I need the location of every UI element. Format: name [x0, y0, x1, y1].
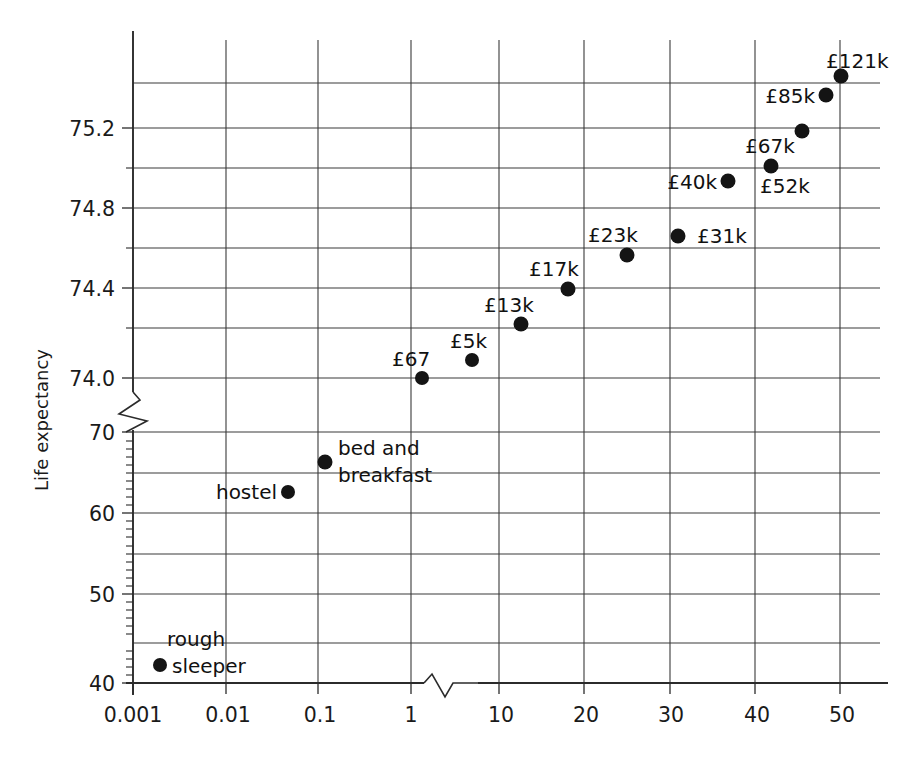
- scatter-chart: 75.2 74.8 74.4 74.0 70 60 50 40 0.001 0.…: [0, 0, 912, 762]
- point-label-13k: £13k: [484, 293, 534, 317]
- y-tick-label-74-0: 74.0: [69, 367, 115, 391]
- chart-canvas: 75.2 74.8 74.4 74.0 70 60 50 40 0.001 0.…: [0, 0, 912, 762]
- grid-horizontal-upper: [133, 83, 880, 378]
- data-point-85k[interactable]: [819, 88, 834, 103]
- data-point-52k[interactable]: [764, 159, 779, 174]
- y-tick-label-40: 40: [89, 672, 115, 696]
- point-label-85k: £85k: [765, 84, 815, 108]
- x-tick-label-50: 50: [829, 703, 855, 727]
- axis-spines: [119, 31, 888, 697]
- data-point-67[interactable]: [415, 371, 429, 385]
- point-label-bb-line1: bed and: [338, 436, 420, 460]
- x-tick-label-0-01: 0.01: [205, 703, 251, 727]
- point-label-bb-line2: breakfast: [338, 463, 432, 487]
- y-tick-label-60: 60: [89, 502, 115, 526]
- point-label-hostel: hostel: [216, 480, 277, 504]
- y-tick-label-70: 70: [89, 421, 115, 445]
- data-point-hostel[interactable]: [281, 485, 295, 499]
- data-point-31k[interactable]: [671, 229, 686, 244]
- data-point-17k[interactable]: [561, 282, 576, 297]
- data-point-40k[interactable]: [721, 174, 736, 189]
- x-axis-major-ticks: [133, 683, 840, 694]
- data-point-67k[interactable]: [795, 124, 810, 139]
- point-label-23k: £23k: [588, 223, 638, 247]
- x-tick-label-20: 20: [573, 703, 599, 727]
- point-labels: rough sleeper hostel bed and breakfast £…: [167, 49, 889, 678]
- point-label-52k: £52k: [760, 174, 810, 198]
- y-axis-title: Life expectancy: [31, 349, 52, 491]
- point-label-31k: £31k: [697, 224, 747, 248]
- y-tick-label-74-8: 74.8: [69, 197, 115, 221]
- x-tick-label-0-001: 0.001: [104, 703, 163, 727]
- point-label-67: £67: [392, 347, 430, 371]
- y-tick-label-75-2: 75.2: [69, 117, 115, 141]
- point-label-67k: £67k: [745, 134, 795, 158]
- point-label-rough-line1: rough: [167, 627, 225, 651]
- point-label-5k: £5k: [450, 329, 487, 353]
- point-label-17k: £17k: [529, 257, 579, 281]
- point-label-rough-line2: sleeper: [172, 654, 247, 678]
- x-tick-label-30: 30: [658, 703, 684, 727]
- data-point-23k[interactable]: [620, 248, 635, 263]
- data-point-5k[interactable]: [465, 353, 479, 367]
- x-tick-label-10: 10: [488, 703, 514, 727]
- y-tick-label-50: 50: [89, 583, 115, 607]
- data-points: [153, 69, 849, 673]
- x-tick-label-0-1: 0.1: [304, 703, 337, 727]
- data-point-13k[interactable]: [514, 317, 529, 332]
- point-label-121k: £121k: [826, 49, 889, 73]
- x-tick-label-1: 1: [404, 703, 417, 727]
- grid-horizontal-lower: [133, 432, 880, 643]
- y-tick-label-74-4: 74.4: [69, 277, 115, 301]
- data-point-bed-and-breakfast[interactable]: [318, 455, 333, 470]
- point-label-40k: £40k: [667, 170, 717, 194]
- data-point-rough-sleeper[interactable]: [153, 658, 167, 672]
- x-tick-label-40: 40: [744, 703, 770, 727]
